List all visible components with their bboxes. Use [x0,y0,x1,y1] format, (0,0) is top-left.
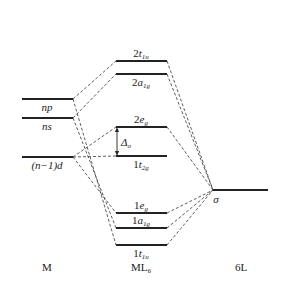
label-1t2g: 1t2g [133,158,149,172]
correlation-lines-metal [73,61,116,245]
column-label-complex: ML6 [131,261,152,275]
label-np: np [42,101,54,113]
correlation-lines-ligand [167,61,213,245]
label-2a1g: 2a1g [132,76,151,90]
label-ns: ns [42,120,52,132]
column-label-metal: M [42,261,52,273]
label-sigma: σ [213,193,219,205]
label-n-1-d: (n−1)d [31,159,63,172]
label-1eg: 1eg [134,199,148,213]
label-2eg: 2eg [134,113,148,127]
mo-diagram: np ns (n−1)d 2t1u 2a1g 2eg 1t2g 1eg 1a1g… [0,0,281,291]
label-delta-o: Δo [120,136,131,150]
label-2t1u: 2t1u [133,47,149,61]
label-1t1u: 1t1u [133,247,149,261]
column-label-ligands: 6L [235,261,248,273]
label-1a1g: 1a1g [132,214,151,228]
delta-o-arrow [115,127,119,156]
